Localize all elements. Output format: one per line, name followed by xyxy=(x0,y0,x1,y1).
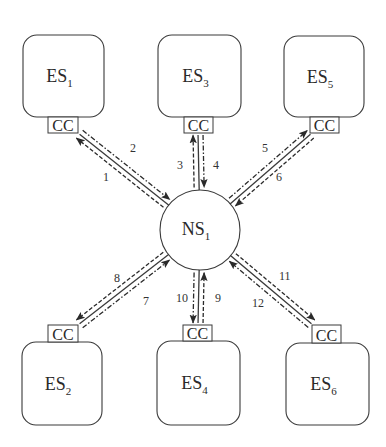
cc-port: CC xyxy=(312,325,341,344)
cc-label: CC xyxy=(316,327,337,344)
solid-link-line xyxy=(198,135,199,191)
station-es2: ES2CC xyxy=(22,325,102,425)
cc-label: CC xyxy=(187,325,208,342)
link-es6: 1112 xyxy=(229,254,314,328)
cc-port: CC xyxy=(48,325,78,343)
solid-link-line xyxy=(80,254,170,324)
cc-label: CC xyxy=(52,117,73,134)
link-es2: 78 xyxy=(77,252,170,327)
message-arrow-5 xyxy=(236,138,314,206)
message-arrow-7 xyxy=(83,260,170,328)
solid-link-line xyxy=(229,134,310,204)
message-arrow-10 xyxy=(193,273,194,323)
message-arrow-6 xyxy=(229,131,307,199)
station-es6: ES6CC xyxy=(286,325,369,425)
cc-label: CC xyxy=(188,117,209,134)
message-arrow-4 xyxy=(193,135,194,187)
message-arrow-3 xyxy=(203,135,204,187)
cc-label: CC xyxy=(314,117,335,134)
solid-link-line xyxy=(198,269,199,323)
message-number: 3 xyxy=(177,158,183,172)
solid-link-line xyxy=(230,255,312,324)
message-number: 1 xyxy=(103,170,109,184)
message-arrow-11 xyxy=(229,261,308,327)
cc-port: CC xyxy=(183,325,212,342)
message-number: 12 xyxy=(252,296,264,310)
message-number: 5 xyxy=(262,141,268,155)
message-number: 2 xyxy=(130,141,136,155)
message-arrow-9 xyxy=(203,273,204,323)
link-es1: 12 xyxy=(76,130,169,207)
station-es1: ES1CC xyxy=(23,35,104,134)
station-es4: ES4CC xyxy=(157,325,240,426)
message-arrow-12 xyxy=(236,254,315,320)
message-number: 11 xyxy=(279,269,291,283)
station-es5: ES5CC xyxy=(284,36,364,134)
message-number: 10 xyxy=(176,291,188,305)
message-arrow-1 xyxy=(83,130,170,199)
cc-port: CC xyxy=(310,117,339,134)
message-arrow-2 xyxy=(76,138,163,207)
network-star-diagram: 123456789101112 ES1CCES3CCES5CCES2CCES4C… xyxy=(0,0,386,447)
center-node: NS1 xyxy=(160,190,240,270)
message-number: 7 xyxy=(143,294,149,308)
cc-port: CC xyxy=(48,117,78,134)
message-number: 6 xyxy=(276,170,282,184)
station-es3: ES3CC xyxy=(158,35,241,134)
message-arrow-8 xyxy=(77,252,164,320)
link-es5: 56 xyxy=(229,131,314,206)
message-number: 8 xyxy=(114,271,120,285)
cc-port: CC xyxy=(184,117,213,134)
message-number: 9 xyxy=(215,291,221,305)
cc-label: CC xyxy=(52,326,73,343)
solid-link-line xyxy=(80,134,170,205)
link-es3: 34 xyxy=(177,135,219,191)
message-number: 4 xyxy=(213,158,219,172)
link-es4: 910 xyxy=(176,269,221,323)
